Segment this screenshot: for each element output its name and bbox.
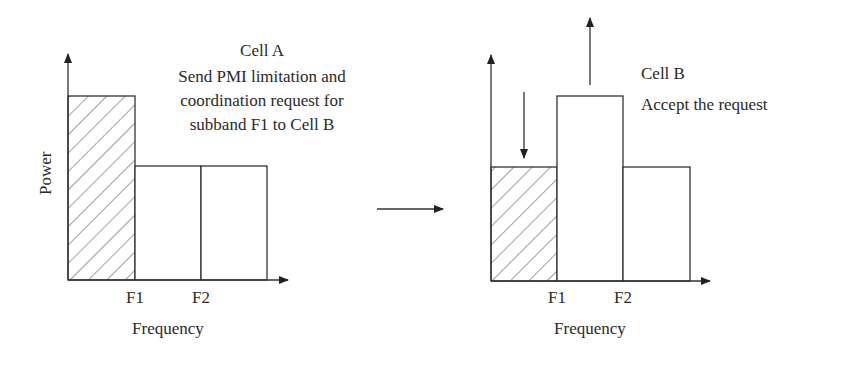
- right-tick-f2: F2: [614, 287, 632, 309]
- right-chart: [491, 18, 710, 281]
- right-bar-f0-f1-hatched: [491, 167, 557, 281]
- diagram-canvas: [0, 0, 845, 369]
- left-tick-f2: F2: [192, 287, 210, 309]
- right-x-axis-label: Frequency: [554, 318, 626, 340]
- left-bar-f2-end: [201, 166, 267, 280]
- left-bar-f0-f1-hatched: [68, 96, 135, 280]
- right-panel-title: Cell B: [641, 63, 685, 85]
- left-tick-f1: F1: [126, 287, 144, 309]
- left-bar-f1-f2: [135, 166, 201, 280]
- left-panel-title: Cell A: [240, 40, 284, 62]
- left-description-line-3: subband F1 to Cell B: [190, 114, 335, 136]
- right-bar-f2-end: [623, 167, 690, 281]
- left-description-line-2: coordination request for: [180, 90, 343, 112]
- left-x-axis-label: Frequency: [132, 318, 204, 340]
- right-bar-f1-f2: [557, 96, 623, 281]
- right-tick-f1: F1: [548, 287, 566, 309]
- left-description-line-1: Send PMI limitation and: [178, 66, 346, 88]
- left-y-axis-label: Power: [36, 152, 56, 195]
- right-description-line-1: Accept the request: [641, 94, 768, 116]
